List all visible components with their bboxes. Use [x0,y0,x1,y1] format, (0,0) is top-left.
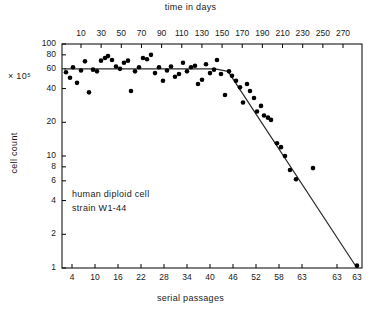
data-point [177,72,182,77]
data-point [279,145,284,150]
data-point [223,93,228,98]
data-point [234,78,239,83]
data-point [133,69,138,74]
axis-tick-label: 60 [28,63,56,73]
data-point [255,109,260,114]
bottom-axis-ticks [72,264,357,268]
data-point [106,54,111,59]
axis-tick-label: 40 [28,83,56,93]
data-point [196,82,201,87]
data-point [141,56,146,61]
data-point [259,104,264,109]
data-point [288,168,293,173]
data-point [71,65,76,70]
data-point [114,64,119,69]
data-point [87,90,92,95]
data-point [64,70,69,75]
data-points [64,53,360,268]
axis-tick-label: 80 [28,49,56,59]
data-point [137,65,142,70]
data-point [181,60,186,65]
data-point [91,67,96,72]
data-point [173,74,178,79]
data-point [110,58,115,63]
data-point [149,53,154,58]
axis-tick-label: 8 [28,161,56,171]
data-point [79,68,84,73]
data-point [219,72,224,77]
data-point [193,63,198,68]
data-point [283,154,288,159]
axis-tick-label: 6 [28,175,56,185]
data-point [294,177,299,182]
axis-tick-label: 20 [28,116,56,126]
axis-tick-label: 63 [282,272,322,282]
axis-tick-label: 4 [28,195,56,205]
left-axis-ticks [62,44,66,268]
top-axis-ticks [81,44,343,48]
data-point [95,69,100,74]
axis-tick-label: 270 [323,28,363,38]
data-point [185,69,190,74]
data-point [248,89,253,94]
axis-tick-label: 10 [28,150,56,160]
data-point [275,141,280,146]
data-point [68,75,73,80]
axis-tick-label: 1 [28,262,56,272]
data-point [204,62,209,67]
plot-frame [62,44,362,268]
data-point [200,77,205,82]
data-point [165,68,170,73]
data-point [245,82,250,87]
data-point [269,118,274,123]
data-point [252,96,257,101]
data-point [83,59,88,64]
data-point [212,67,217,72]
data-point [208,71,213,76]
data-point [169,64,174,69]
data-point [118,67,123,72]
data-point [227,69,232,74]
data-point [145,57,150,62]
data-point [189,65,194,70]
axis-tick-label: 63 [337,272,377,282]
data-point [311,166,316,171]
data-point [99,58,104,63]
chart-figure: time in days × 10⁵ cell count serial pas… [0,0,381,312]
data-point [122,60,127,65]
data-point [215,58,220,63]
data-point [126,58,131,63]
data-point [161,78,166,83]
data-point [75,81,80,86]
axis-tick-label: 100 [28,38,56,48]
data-point [241,100,246,105]
data-point [355,263,360,268]
data-point [238,85,243,90]
data-point [157,65,162,70]
data-point [129,89,134,94]
chart-canvas [0,0,381,312]
data-point [153,71,158,76]
axis-tick-label: 2 [28,228,56,238]
data-point [262,113,267,118]
data-point [230,74,235,79]
